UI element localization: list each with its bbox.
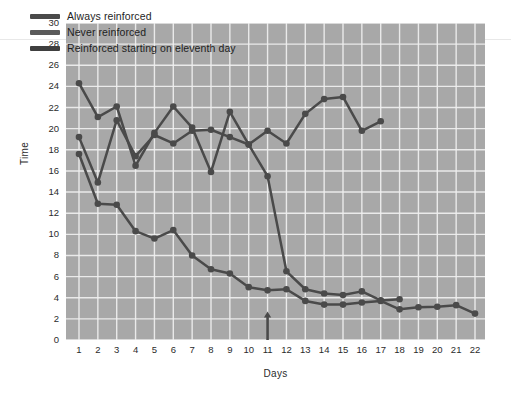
data-point <box>377 297 384 304</box>
data-point <box>377 118 384 125</box>
data-point <box>264 287 271 294</box>
y-tick-label: 4 <box>33 292 59 303</box>
data-point <box>113 103 120 110</box>
data-point <box>227 108 234 115</box>
data-point <box>208 266 215 273</box>
y-tick-label: 24 <box>33 80 59 91</box>
data-point <box>189 127 196 134</box>
x-tick-label: 1 <box>70 344 88 355</box>
x-tick-label: 5 <box>145 344 163 355</box>
data-point <box>245 141 252 148</box>
data-point <box>283 140 290 147</box>
data-point <box>302 111 309 118</box>
series-3 <box>76 117 403 304</box>
y-axis-title: Time <box>19 124 30 184</box>
data-point <box>208 169 215 176</box>
y-tick-label: 20 <box>33 123 59 134</box>
x-tick-label: 18 <box>391 344 409 355</box>
y-tick-label: 0 <box>33 334 59 345</box>
x-tick-label: 17 <box>372 344 390 355</box>
y-tick-label: 14 <box>33 186 59 197</box>
x-tick-label: 15 <box>334 344 352 355</box>
x-tick-label: 22 <box>466 344 484 355</box>
chart-figure: Time Days 024681012141618202224262830 12… <box>0 0 511 395</box>
y-tick-label: 6 <box>33 271 59 282</box>
data-point <box>321 290 328 297</box>
legend-item-reinforced-eleventh-day: Reinforced starting on eleventh day <box>30 40 236 56</box>
data-point <box>472 310 479 317</box>
x-tick-label: 21 <box>447 344 465 355</box>
data-point <box>95 200 102 207</box>
data-point <box>340 301 347 308</box>
data-point <box>170 227 177 234</box>
x-tick-label: 9 <box>221 344 239 355</box>
y-tick-label: 8 <box>33 249 59 260</box>
data-point <box>132 228 139 235</box>
eleventh-day-arrow <box>264 311 271 340</box>
y-tick-label: 22 <box>33 102 59 113</box>
x-tick-label: 7 <box>183 344 201 355</box>
data-point <box>359 288 366 295</box>
data-point <box>113 117 120 124</box>
y-tick-label: 16 <box>33 165 59 176</box>
legend-label-always-reinforced: Always reinforced <box>67 10 152 22</box>
data-point <box>227 134 234 141</box>
legend-item-never-reinforced: Never reinforced <box>30 24 236 40</box>
x-tick-label: 3 <box>108 344 126 355</box>
chart-legend: Always reinforced Never reinforced Reinf… <box>30 8 236 56</box>
data-point <box>245 284 252 291</box>
data-point <box>227 270 234 277</box>
legend-item-always-reinforced: Always reinforced <box>30 8 236 24</box>
legend-swatch-always-reinforced <box>30 14 60 19</box>
data-point <box>340 292 347 299</box>
data-point <box>113 201 120 208</box>
x-tick-label: 14 <box>315 344 333 355</box>
data-point <box>76 151 83 158</box>
data-point <box>321 301 328 308</box>
data-point <box>132 162 139 169</box>
x-axis-title: Days <box>66 368 485 379</box>
x-tick-label: 16 <box>353 344 371 355</box>
x-tick-label: 2 <box>89 344 107 355</box>
x-tick-label: 10 <box>240 344 258 355</box>
chart-canvas <box>66 23 485 340</box>
data-point <box>151 132 158 139</box>
data-point <box>264 127 271 134</box>
x-tick-label: 13 <box>296 344 314 355</box>
legend-swatch-reinforced-eleventh-day <box>30 46 60 51</box>
x-tick-label: 12 <box>277 344 295 355</box>
data-point <box>302 298 309 305</box>
data-point <box>321 96 328 103</box>
data-point <box>132 153 139 160</box>
legend-swatch-never-reinforced <box>30 30 60 35</box>
x-tick-label: 20 <box>428 344 446 355</box>
series-line <box>79 120 400 300</box>
data-point <box>283 286 290 293</box>
data-point <box>76 80 83 87</box>
legend-label-never-reinforced: Never reinforced <box>67 26 146 38</box>
arrow-head <box>264 311 271 317</box>
data-point <box>95 179 102 186</box>
x-tick-label: 8 <box>202 344 220 355</box>
data-point <box>189 252 196 259</box>
y-tick-label: 12 <box>33 207 59 218</box>
data-point <box>359 127 366 134</box>
y-tick-label: 18 <box>33 144 59 155</box>
x-tick-label: 6 <box>164 344 182 355</box>
data-point <box>396 306 403 313</box>
y-tick-label: 10 <box>33 228 59 239</box>
data-point <box>453 302 460 309</box>
data-point <box>170 140 177 147</box>
legend-label-reinforced-eleventh-day: Reinforced starting on eleventh day <box>67 42 236 54</box>
data-point <box>95 114 102 121</box>
data-point <box>208 126 215 133</box>
data-point <box>170 103 177 110</box>
data-point <box>76 134 83 141</box>
data-point <box>415 304 422 311</box>
x-tick-label: 11 <box>259 344 277 355</box>
y-tick-label: 2 <box>33 313 59 324</box>
y-tick-label: 26 <box>33 59 59 70</box>
x-tick-label: 4 <box>127 344 145 355</box>
data-point <box>302 286 309 293</box>
data-point <box>151 235 158 242</box>
